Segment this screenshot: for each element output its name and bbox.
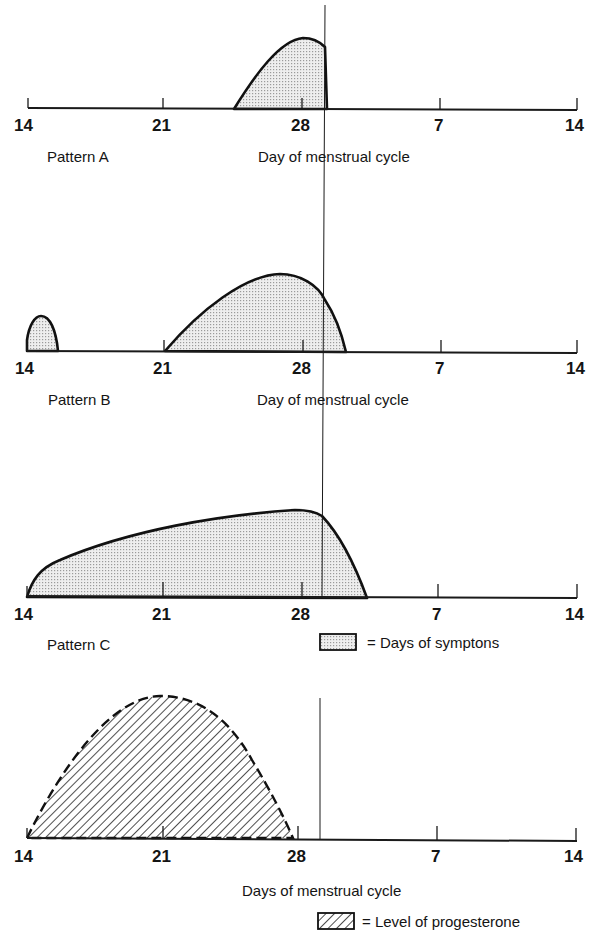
- tick-label: 7: [435, 359, 444, 378]
- tick-label: 21: [153, 359, 172, 378]
- tick-label: 14: [566, 359, 585, 378]
- tick-label: 14: [14, 605, 33, 624]
- tick-label: 14: [565, 605, 584, 624]
- tick-label: 7: [431, 847, 440, 866]
- tick-label: 28: [287, 847, 306, 866]
- tick-label: 14: [564, 847, 583, 866]
- symptom-curve-b-premenstrual: [165, 274, 346, 352]
- tick-label: 14: [565, 116, 584, 135]
- panel-pattern-b: 14 21 28 7 14 Pattern B Day of menstrual…: [15, 274, 585, 408]
- x-axis-b: [27, 351, 577, 353]
- tick-label: 28: [292, 359, 311, 378]
- pattern-label: Pattern A: [47, 148, 109, 165]
- legend-label-symptoms: = Days of symptons: [367, 634, 499, 651]
- symptom-curve-a: [234, 38, 327, 109]
- panel-progesterone: 14 21 28 7 14 Days of menstrual cycle = …: [14, 696, 583, 930]
- tick-label: 14: [14, 847, 33, 866]
- legend-swatch-progesterone: [318, 913, 354, 929]
- progesterone-curve: [27, 696, 293, 838]
- tick-label: 7: [432, 605, 441, 624]
- symptom-curve-c: [27, 510, 367, 598]
- panel-pattern-c: 14 21 28 7 14 Pattern C = Days of sympto…: [14, 510, 584, 653]
- tick-label: 28: [291, 605, 310, 624]
- tick-label: 28: [291, 116, 310, 135]
- tick-label: 21: [152, 116, 171, 135]
- menstrual-cycle-diagram: 14 21 28 7 14 Pattern A Day of menstrual…: [0, 0, 598, 948]
- x-axis-progesterone: [27, 838, 577, 841]
- legend-swatch-symptoms: [320, 634, 356, 650]
- symptom-curve-b-ovulation: [27, 316, 58, 351]
- legend-label-progesterone: = Level of progesterone: [362, 913, 520, 930]
- pattern-label: Pattern B: [48, 391, 111, 408]
- tick-label: 21: [152, 605, 171, 624]
- pattern-label: Pattern C: [47, 636, 111, 653]
- axis-label: Day of menstrual cycle: [257, 391, 409, 408]
- tick-label: 14: [14, 116, 33, 135]
- tick-label: 7: [434, 116, 443, 135]
- axis-label: Days of menstrual cycle: [242, 882, 401, 899]
- tick-label: 14: [15, 359, 34, 378]
- tick-label: 21: [152, 847, 171, 866]
- panel-pattern-a: 14 21 28 7 14 Pattern A Day of menstrual…: [14, 38, 584, 165]
- axis-label: Day of menstrual cycle: [258, 148, 410, 165]
